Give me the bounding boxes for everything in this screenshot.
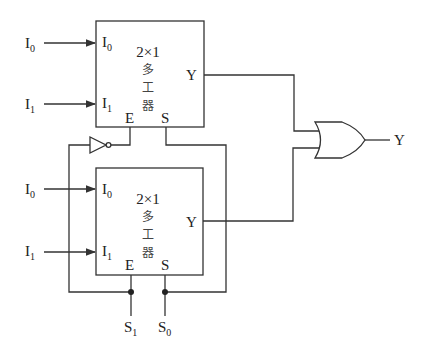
mux-bottom-pin-i1: I1 <box>102 243 112 262</box>
wire-top-enable <box>111 127 130 145</box>
select-wiring: S1 S0 <box>124 127 226 338</box>
mux-top-pin-s: S <box>161 110 169 126</box>
or-gate-wiring: Y <box>203 75 405 221</box>
mux-top-title: 2×1 <box>136 44 159 60</box>
not-gate-triangle <box>90 137 106 153</box>
input-label-bottom-i0: I0 <box>25 181 35 200</box>
not-gate <box>69 127 131 292</box>
mux-top-pin-y: Y <box>186 67 197 83</box>
mux-bottom-pin-y: Y <box>186 214 197 230</box>
external-inputs: I0 I1 I0 I1 <box>25 35 95 262</box>
output-label-y: Y <box>394 132 405 148</box>
input-label-bottom-i1: I1 <box>25 243 35 262</box>
mux-bottom-title: 2×1 <box>136 191 159 207</box>
wire-top-y <box>204 75 319 131</box>
mux-bottom-pin-e: E <box>125 257 134 273</box>
input-label-top-i1: I1 <box>25 96 35 115</box>
mux-top: I0 I1 2×1 多 工 器 Y E S <box>96 21 204 127</box>
wire-bottom-y <box>203 148 319 221</box>
mux-top-char-1: 多 <box>142 63 154 77</box>
mux-bottom-char-3: 器 <box>142 246 154 260</box>
wire-top-select <box>165 127 226 292</box>
select-label-s0: S0 <box>158 319 171 338</box>
junction-s0 <box>162 289 168 295</box>
junction-s1 <box>128 289 134 295</box>
mux-top-char-2: 工 <box>142 81 154 95</box>
or-gate <box>315 122 365 158</box>
select-label-s1: S1 <box>124 319 137 338</box>
mux-top-pin-i1: I1 <box>102 95 112 114</box>
mux-bottom: I0 I1 2×1 多 工 器 Y E S <box>96 168 203 275</box>
mux-bottom-pin-i0: I0 <box>102 181 112 200</box>
input-label-top-i0: I0 <box>25 35 35 54</box>
mux-bottom-char-1: 多 <box>142 210 154 224</box>
mux-bottom-pin-s: S <box>161 257 169 273</box>
wire-s1-to-inverter <box>69 145 131 292</box>
mux-bottom-char-2: 工 <box>142 228 154 242</box>
mux-top-char-3: 器 <box>142 99 154 113</box>
mux-top-pin-e: E <box>125 110 134 126</box>
mux-circuit-diagram: I0 I1 2×1 多 工 器 Y E S I0 I1 2×1 多 工 器 Y … <box>0 0 422 353</box>
mux-top-pin-i0: I0 <box>102 34 112 53</box>
